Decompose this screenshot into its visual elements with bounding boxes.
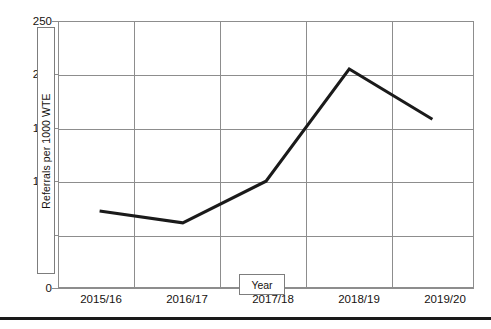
x-tick-label-2018-19: 2018/19 bbox=[314, 293, 404, 306]
x-tick-label-2019-20: 2019/20 bbox=[400, 293, 490, 306]
y-tick-0 bbox=[52, 288, 58, 289]
chart-screenshot: 250 200 150 100 50 0 Referrals per 1000 … bbox=[0, 0, 491, 329]
bottom-divider bbox=[0, 317, 491, 320]
x-tick-label-2015-16: 2015/16 bbox=[56, 293, 146, 306]
y-tick-label-0: 0 bbox=[8, 283, 52, 295]
y-tick-250 bbox=[52, 21, 58, 22]
x-axis-title: Year bbox=[239, 274, 285, 295]
y-axis-title: Referrals per 1000 WTE bbox=[37, 27, 55, 274]
gridline-horizontal-100 bbox=[59, 182, 473, 183]
y-axis-line bbox=[58, 21, 59, 289]
gridline-vertical-2018-19 bbox=[392, 22, 393, 287]
gridline-horizontal-150 bbox=[59, 129, 473, 130]
x-tick-label-2016-17: 2016/17 bbox=[142, 293, 232, 306]
gridline-horizontal-200 bbox=[59, 75, 473, 76]
gridline-vertical-2017-18 bbox=[306, 22, 307, 287]
y-axis-title-label: Referrals per 1000 WTE bbox=[40, 93, 52, 208]
gridline-horizontal-50 bbox=[59, 236, 473, 237]
gridline-vertical-2016-17 bbox=[220, 22, 221, 287]
gridline-vertical-2015-16 bbox=[134, 22, 135, 287]
x-axis-title-label: Year bbox=[251, 279, 272, 291]
y-tick-label-250: 250 bbox=[8, 16, 52, 28]
plot-area bbox=[58, 21, 474, 288]
